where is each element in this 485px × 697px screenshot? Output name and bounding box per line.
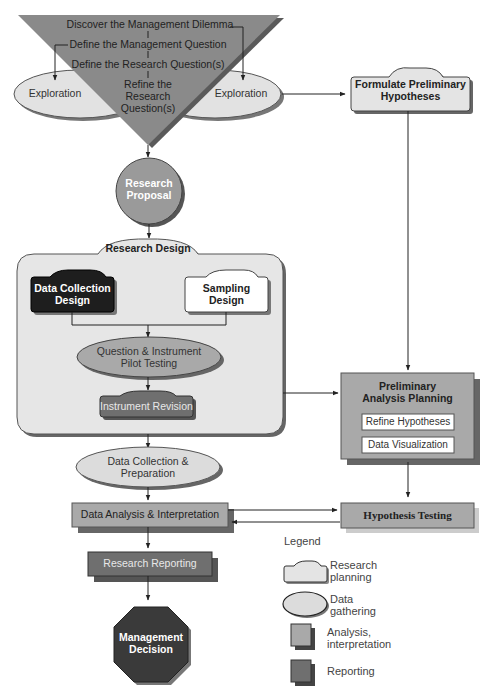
preliminary-analysis-label: Preliminary Analysis Planning xyxy=(341,381,474,405)
legend-item-1-line1: Data xyxy=(330,593,376,605)
preliminary-line2: Analysis Planning xyxy=(341,393,474,405)
funnel-step-refine-line3: Question(s) xyxy=(108,103,188,115)
legend-title: Legend xyxy=(284,535,321,547)
research-proposal-label: Research Proposal xyxy=(116,178,182,202)
funnel-step-refine: Refine the Research Question(s) xyxy=(108,79,188,114)
funnel-step-research-question: Define the Research Question(s) xyxy=(70,59,226,71)
research-design-title: Research Design xyxy=(98,243,198,255)
legend-item-1-line2: gathering xyxy=(330,605,376,617)
proposal-line2: Proposal xyxy=(116,190,182,202)
formulate-hypotheses-label: Formulate Preliminary Hypotheses xyxy=(351,79,470,103)
pilot-line1: Question & Instrument xyxy=(79,346,219,358)
diagram-canvas xyxy=(0,0,485,697)
data-collection-prep-label: Data Collection & Preparation xyxy=(78,456,218,480)
data-collection-design-label: Data Collection Design xyxy=(31,283,114,307)
data-collection-prep-line1: Data Collection & xyxy=(78,456,218,468)
legend-item-2-line1: Analysis, xyxy=(327,626,391,638)
pilot-testing-label: Question & Instrument Pilot Testing xyxy=(79,346,219,370)
instrument-revision-label: Instrument Revision xyxy=(100,401,193,413)
hypothesis-testing-label: Hypothesis Testing xyxy=(341,509,474,521)
legend-reporting-icon xyxy=(291,660,315,686)
formulate-line2: Hypotheses xyxy=(351,91,470,103)
refine-hypotheses-label: Refine Hypotheses xyxy=(362,416,454,427)
legend-data-gathering-icon xyxy=(283,592,329,618)
pilot-line2: Pilot Testing xyxy=(79,358,219,370)
legend-item-2-line2: interpretation xyxy=(327,638,391,650)
data-analysis-label: Data Analysis & Interpretation xyxy=(72,509,228,521)
legend-item-0-line2: planning xyxy=(330,571,377,583)
data-collection-line1: Data Collection xyxy=(31,283,114,295)
preliminary-line1: Preliminary xyxy=(341,381,474,393)
funnel-step-discover: Discover the Management Dilemma xyxy=(60,19,240,31)
sampling-design-label: Sampling Design xyxy=(185,283,268,307)
data-visualization-label: Data Visualization xyxy=(362,439,454,450)
legend-item-reporting: Reporting xyxy=(327,665,375,677)
data-collection-line2: Design xyxy=(31,295,114,307)
formulate-line1: Formulate Preliminary xyxy=(351,79,470,91)
funnel-step-refine-line2: Research xyxy=(108,91,188,103)
legend-item-data-gathering: Data gathering xyxy=(330,593,376,618)
legend-research-planning-icon xyxy=(284,561,329,584)
proposal-line1: Research xyxy=(116,178,182,190)
data-collection-prep-line2: Preparation xyxy=(78,468,218,480)
decision-line2: Decision xyxy=(114,644,188,656)
management-decision-label: Management Decision xyxy=(114,632,188,656)
funnel-step-refine-line1: Refine the xyxy=(108,79,188,91)
exploration-left-label: Exploration xyxy=(20,88,90,100)
funnel-step-management-question: Define the Management Question xyxy=(68,39,228,51)
legend-analysis-icon xyxy=(291,624,315,650)
decision-line1: Management xyxy=(114,632,188,644)
legend-item-analysis: Analysis, interpretation xyxy=(327,626,391,651)
sampling-line2: Design xyxy=(185,295,268,307)
sampling-line1: Sampling xyxy=(185,283,268,295)
exploration-right-label: Exploration xyxy=(206,88,276,100)
research-reporting-label: Research Reporting xyxy=(88,558,212,570)
legend-item-0-line1: Research xyxy=(330,559,377,571)
legend-item-research-planning: Research planning xyxy=(330,559,377,584)
